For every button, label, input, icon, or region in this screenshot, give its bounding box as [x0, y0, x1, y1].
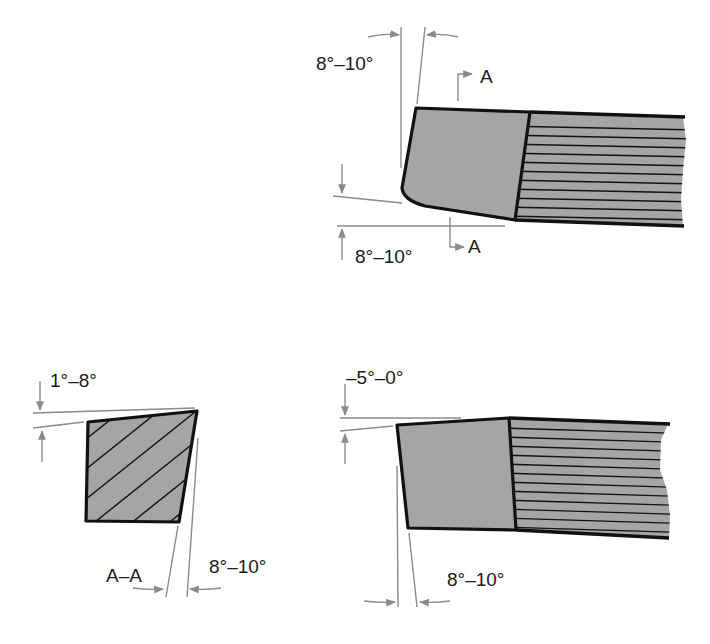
section-title-label: A–A	[106, 566, 142, 585]
arrow-icon	[420, 601, 450, 602]
tool-geometry-diagram	[0, 0, 710, 644]
section-arrow-icon	[458, 74, 472, 101]
section-arrow-icon	[450, 217, 464, 247]
tool-tip	[397, 418, 516, 530]
section-marker-top: A	[480, 67, 493, 86]
section-rake-label: 1°–8°	[50, 371, 97, 390]
arrow-icon	[427, 34, 458, 37]
reference-line	[340, 426, 393, 431]
side-view	[340, 384, 700, 607]
reference-line	[166, 526, 178, 597]
reference-line	[397, 466, 398, 607]
section-clearance-label: 8°–10°	[209, 557, 266, 576]
reference-line	[417, 27, 425, 104]
top-end-relief-label: 8°–10°	[355, 247, 412, 266]
side-clearance-label: 8°–10°	[447, 570, 504, 589]
top-side-clearance-label: 8°–10°	[316, 54, 373, 73]
arrow-icon	[368, 34, 399, 37]
side-rake-label: –5°–0°	[346, 368, 403, 387]
tool-tip	[402, 108, 530, 220]
reference-line	[409, 533, 417, 607]
reference-line	[333, 196, 402, 203]
reference-line	[33, 422, 84, 428]
arrow-icon	[364, 601, 395, 602]
top-view	[333, 27, 700, 260]
section-marker-bottom: A	[468, 237, 481, 256]
arrow-icon	[133, 588, 163, 589]
arrow-icon	[190, 588, 221, 589]
